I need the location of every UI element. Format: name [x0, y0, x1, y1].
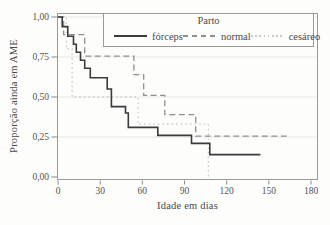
x-tick-label-150: 150: [262, 186, 277, 196]
legend: Parto fórcepsnormalcesáreo: [103, 13, 314, 47]
legend-items: fórcepsnormalcesáreo: [104, 28, 313, 44]
x-tick-label-60: 60: [138, 186, 148, 196]
y-tick-label-0,00: 0,00: [32, 172, 49, 182]
x-tick-label-120: 120: [220, 186, 235, 196]
y-tick-label-0,50: 0,50: [32, 92, 49, 102]
x-tick-label-180: 180: [304, 186, 319, 196]
y-axis-title: Proporção ainda em AME: [8, 39, 19, 153]
x-tick-label-0: 0: [56, 186, 61, 196]
legend-item-normal: normal: [183, 31, 251, 42]
legend-title: Parto: [104, 14, 313, 28]
x-tick-label-30: 30: [95, 186, 105, 196]
legend-line-sample-normal: [183, 35, 216, 37]
x-axis-ticks: 0306090120150180: [56, 181, 319, 196]
x-axis-title: Idade em dias: [57, 200, 318, 211]
y-axis-ticks: 1,000,750,500,250,00: [32, 12, 57, 182]
km-survival-chart: 0306090120150180 1,000,750,500,250,00 Pr…: [0, 0, 330, 225]
x-tick-label-90: 90: [180, 186, 190, 196]
legend-label-cesareo: cesáreo: [289, 31, 320, 42]
y-tick-label-0,75: 0,75: [32, 52, 49, 62]
y-tick-label-0,25: 0,25: [32, 132, 49, 142]
legend-item-cesareo: cesáreo: [251, 31, 320, 42]
y-tick-label-1,00: 1,00: [32, 12, 49, 22]
legend-line-sample-forceps: [114, 35, 147, 37]
legend-item-forceps: fórceps: [114, 31, 183, 42]
legend-label-normal: normal: [221, 31, 251, 42]
legend-line-sample-cesareo: [251, 35, 284, 37]
legend-label-forceps: fórceps: [152, 31, 183, 42]
